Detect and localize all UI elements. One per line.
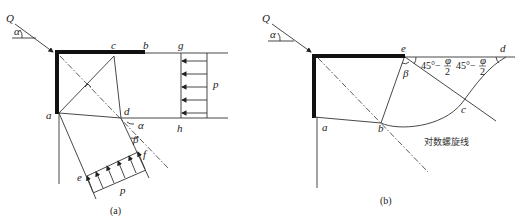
svg-text:2: 2 xyxy=(480,66,485,77)
label-p-right: p xyxy=(212,78,219,90)
label-alpha-top-b: α xyxy=(270,28,276,40)
label-b-b: b xyxy=(378,122,384,134)
line-ac xyxy=(59,56,114,113)
alpha-arc xyxy=(20,30,22,38)
alpha-arc-d xyxy=(127,122,134,124)
pressure-block-top xyxy=(87,152,138,176)
log-spiral-curve xyxy=(381,57,506,127)
label-g: g xyxy=(178,39,184,51)
label-c: c xyxy=(111,39,116,51)
figure-a: Q α c b g p a d h α β f e p (a) xyxy=(6,12,228,217)
svg-text:45°−: 45°− xyxy=(456,60,476,71)
label-h: h xyxy=(177,122,183,134)
svg-text:45°−: 45°− xyxy=(421,60,441,71)
caption-b: (b) xyxy=(380,195,392,207)
angle-arc-e xyxy=(414,57,416,64)
label-c-b: c xyxy=(461,103,466,115)
label-f: f xyxy=(143,148,148,160)
log-spiral-label: 对数螺旋线 xyxy=(424,136,469,147)
line-ad xyxy=(59,113,121,118)
label-d: d xyxy=(124,105,130,117)
axis-dashdot xyxy=(60,56,168,168)
label-p-bottom: p xyxy=(119,184,126,196)
svg-text:2: 2 xyxy=(445,66,450,77)
pressure-arrows-right xyxy=(182,61,207,113)
diagram-canvas: Q α c b g p a d h α β f e p (a) xyxy=(0,0,521,222)
label-q-b: Q xyxy=(262,12,270,24)
alpha-arc-b xyxy=(278,33,280,41)
svg-text:φ: φ xyxy=(480,54,486,66)
label-alpha-d: α xyxy=(138,119,144,131)
label-q: Q xyxy=(6,12,14,24)
svg-text:φ: φ xyxy=(445,54,451,66)
beta-arc-b xyxy=(402,62,409,64)
right-angle-mark xyxy=(85,84,91,87)
label-e-b: e xyxy=(401,42,406,54)
axis-dashdot-b xyxy=(318,58,428,172)
label-a: a xyxy=(46,109,52,121)
label-e: e xyxy=(77,171,82,183)
load-q-arrow-b xyxy=(272,24,311,52)
label-alpha-top: α xyxy=(14,25,20,37)
label-beta-d: β xyxy=(132,133,139,145)
line-be xyxy=(381,58,404,123)
label-a-b: a xyxy=(322,121,328,133)
figure-b: Q α e d β 45°− φ 2 45°− φ 2 c a b 对数螺旋线 … xyxy=(262,12,515,207)
label-b: b xyxy=(143,39,149,51)
label-beta-b: β xyxy=(402,67,409,79)
line-cd xyxy=(114,56,121,118)
label-d-b: d xyxy=(500,42,506,54)
caption-a: (a) xyxy=(110,205,121,217)
